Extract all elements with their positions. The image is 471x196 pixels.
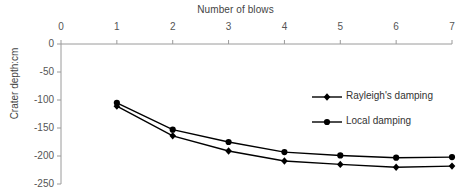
axes [57, 40, 452, 184]
data-series [114, 100, 456, 171]
series-circle [114, 100, 455, 161]
series-diamond [114, 102, 456, 170]
legend-label: Local damping [346, 115, 411, 126]
legend-markers [312, 93, 342, 125]
legend-marker-circle [312, 119, 342, 125]
legend-marker-diamond [312, 93, 342, 100]
legend-label: Rayleigh's damping [346, 90, 433, 101]
chart-container: Number of blows Crater depth:cm 01234567… [0, 0, 471, 196]
